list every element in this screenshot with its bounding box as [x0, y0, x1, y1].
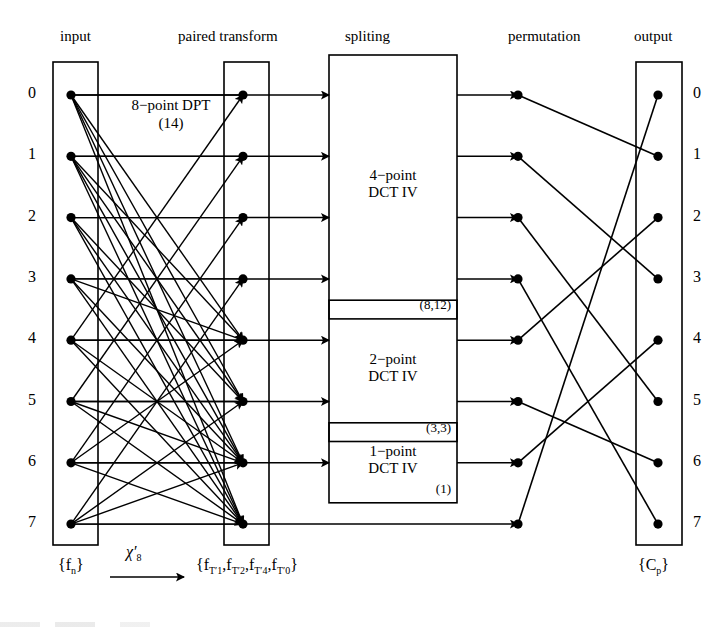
input-set-label: {fn} [58, 556, 84, 576]
paired-term-3: T′ [277, 565, 285, 576]
paired-transform-node-4 [238, 336, 247, 345]
output-index-5: 5 [693, 391, 701, 409]
output-index-3: 3 [693, 268, 701, 286]
edge [71, 279, 243, 463]
output-index-7: 7 [693, 513, 701, 531]
block-cost-1: (3,3) [395, 420, 451, 436]
output-node-1 [653, 152, 662, 161]
paired-transform-node-5 [238, 397, 247, 406]
paired-transform-node-7 [238, 520, 247, 529]
output-index-0: 0 [693, 84, 701, 102]
paired-transform-node-1 [238, 152, 247, 161]
input-index-0: 0 [28, 84, 36, 102]
edge [518, 218, 658, 341]
signal-flow-graph [0, 0, 727, 627]
paired-transform-node-2 [238, 213, 247, 222]
edge [518, 95, 658, 524]
chi-symbol-label: χ′8 [126, 543, 142, 563]
paired-term-sub-0: 1 [217, 565, 222, 576]
permutation-node-5 [513, 397, 522, 406]
input-set-close: } [76, 556, 84, 573]
block-line2-1: DCT IV [329, 368, 457, 385]
edge [518, 402, 658, 463]
column-header-paired-transform: paired transform [178, 28, 278, 45]
paired-term-2: T′ [254, 565, 262, 576]
permutation-node-6 [513, 458, 522, 467]
permutation-node-0 [513, 90, 522, 99]
output-node-7 [653, 520, 662, 529]
chi-symbol-sub: 8 [137, 552, 142, 563]
input-node-1 [66, 152, 75, 161]
paired-term-1: T′ [232, 565, 240, 576]
edge [518, 95, 658, 156]
edge [518, 156, 658, 279]
input-index-2: 2 [28, 207, 36, 225]
split-blocks [329, 55, 457, 503]
input-index-6: 6 [28, 452, 36, 470]
input-node-4 [66, 336, 75, 345]
paired-set-close: } [290, 556, 298, 573]
block-cost-2: (1) [395, 481, 451, 497]
output-node-5 [653, 397, 662, 406]
paired-transform-box [224, 62, 269, 545]
block-cost-0: (8,12) [395, 297, 451, 313]
paired-term-sub-2: 4 [263, 565, 268, 576]
output-node-6 [653, 458, 662, 467]
paired-set-open: {f [196, 556, 209, 573]
column-header-spliting: spliting [345, 28, 390, 45]
permutation-node-3 [513, 274, 522, 283]
figure-canvas: input paired transform spliting permutat… [0, 0, 727, 627]
output-node-3 [653, 274, 662, 283]
output-index-1: 1 [693, 145, 701, 163]
column-header-input: input [60, 28, 91, 45]
input-node-7 [66, 520, 75, 529]
column-header-output: output [634, 28, 672, 45]
input-box [53, 62, 98, 545]
input-node-2 [66, 213, 75, 222]
input-index-7: 7 [28, 513, 36, 531]
block-line1-0: 4−point [329, 167, 457, 184]
input-index-3: 3 [28, 268, 36, 286]
input-set-open: {f [58, 556, 71, 573]
output-node-0 [653, 90, 662, 99]
page-edge-strip [0, 622, 727, 627]
output-node-2 [653, 213, 662, 222]
edge [71, 279, 243, 340]
output-index-2: 2 [693, 207, 701, 225]
block-title-0: 4−pointDCT IV [329, 167, 457, 202]
block-title-2: 1−pointDCT IV [329, 443, 457, 478]
permutation-node-4 [513, 336, 522, 345]
input-node-3 [66, 274, 75, 283]
dpt-label: 8−point DPT [106, 96, 236, 114]
block-title-1: 2−pointDCT IV [329, 351, 457, 386]
paired-transform-node-3 [238, 274, 247, 283]
output-node-4 [653, 336, 662, 345]
output-set-close: } [661, 556, 669, 573]
dpt-cost-label: (14) [106, 114, 236, 132]
output-set-label: {Cp} [638, 556, 669, 576]
output-index-4: 4 [693, 329, 701, 347]
input-node-0 [66, 90, 75, 99]
edge [71, 156, 243, 340]
output-index-6: 6 [693, 452, 701, 470]
input-index-5: 5 [28, 391, 36, 409]
block-line1-1: 2−point [329, 351, 457, 368]
paired-term-sub-1: 2 [240, 565, 245, 576]
block-line2-2: DCT IV [329, 460, 457, 477]
paired-transform-node-0 [238, 90, 247, 99]
input-index-1: 1 [28, 145, 36, 163]
block-line1-2: 1−point [329, 443, 457, 460]
edge [71, 402, 243, 463]
output-set-open: {C [638, 556, 656, 573]
input-index-4: 4 [28, 329, 36, 347]
output-box [636, 62, 682, 545]
input-node-5 [66, 397, 75, 406]
block-line2-0: DCT IV [329, 184, 457, 201]
paired-transform-node-6 [238, 458, 247, 467]
paired-set-label: {fT′1,fT′2,fT′4,fT′0} [196, 556, 298, 576]
permutation-node-1 [513, 152, 522, 161]
input-node-6 [66, 458, 75, 467]
permutation-node-7 [513, 520, 522, 529]
permutation-node-2 [513, 213, 522, 222]
column-header-permutation: permutation [508, 28, 580, 45]
